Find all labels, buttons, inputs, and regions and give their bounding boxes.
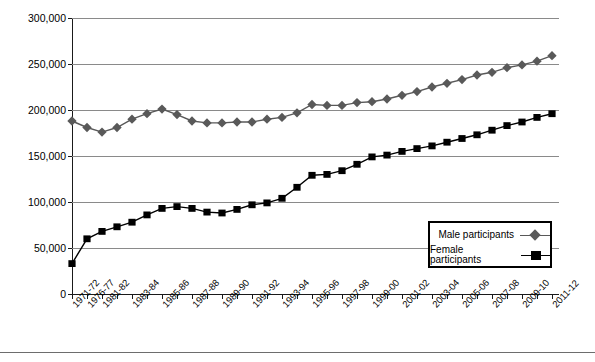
square-marker-icon bbox=[458, 135, 465, 142]
diamond-marker-icon bbox=[232, 117, 241, 126]
diamond-marker-icon bbox=[367, 97, 376, 106]
y-tick-label: 250,000 bbox=[0, 59, 66, 69]
diamond-marker-icon bbox=[127, 115, 136, 124]
diamond-marker-icon bbox=[307, 100, 316, 109]
y-tick-label: 300,000 bbox=[0, 13, 66, 23]
chart-container: 300,000250,000200,000150,000100,00050,00… bbox=[0, 0, 595, 362]
diamond-marker-icon bbox=[157, 104, 166, 113]
diamond-marker-icon bbox=[172, 110, 181, 119]
square-marker-icon bbox=[173, 203, 180, 210]
diamond-marker-icon bbox=[427, 82, 436, 91]
square-marker-icon bbox=[143, 212, 150, 219]
diamond-marker-icon bbox=[397, 91, 406, 100]
square-marker-icon bbox=[533, 114, 540, 121]
square-marker-icon bbox=[398, 148, 405, 155]
square-marker-icon bbox=[488, 127, 495, 134]
legend-item-male: Male participants bbox=[430, 225, 554, 245]
legend-label-male: Male participants bbox=[438, 230, 514, 240]
square-marker-icon bbox=[503, 122, 510, 129]
chart-legend: Male participants Female participants bbox=[428, 221, 552, 268]
square-marker-icon bbox=[473, 131, 480, 138]
square-marker-icon bbox=[368, 154, 375, 161]
diamond-marker-icon bbox=[472, 70, 481, 79]
square-marker-icon bbox=[443, 139, 450, 146]
square-marker-icon bbox=[383, 152, 390, 159]
square-marker-icon bbox=[68, 260, 75, 267]
diamond-marker-icon bbox=[337, 101, 346, 110]
diamond-marker-icon bbox=[547, 51, 556, 60]
square-marker-icon bbox=[83, 235, 90, 242]
diamond-marker-icon bbox=[142, 109, 151, 118]
bottom-divider bbox=[0, 352, 595, 353]
diamond-marker-icon bbox=[112, 123, 121, 132]
y-tick-label: 200,000 bbox=[0, 105, 66, 115]
diamond-marker-icon bbox=[382, 94, 391, 103]
diamond-marker-icon bbox=[82, 123, 91, 132]
diamond-marker-icon bbox=[487, 68, 496, 77]
square-marker-icon bbox=[158, 205, 165, 212]
square-marker-icon bbox=[233, 206, 240, 213]
diamond-marker-icon bbox=[217, 118, 226, 127]
square-marker-icon bbox=[218, 210, 225, 217]
diamond-marker-icon bbox=[412, 87, 421, 96]
y-tick-label: 150,000 bbox=[0, 151, 66, 161]
square-marker-icon bbox=[203, 209, 210, 216]
diamond-marker-icon bbox=[292, 108, 301, 117]
square-marker-icon bbox=[188, 205, 195, 212]
diamond-marker-icon bbox=[322, 101, 331, 110]
square-marker-icon bbox=[353, 161, 360, 168]
y-tick-label: 100,000 bbox=[0, 197, 66, 207]
square-marker-icon bbox=[113, 223, 120, 230]
square-marker-icon bbox=[413, 145, 420, 152]
square-marker-icon bbox=[521, 249, 550, 261]
square-marker-icon bbox=[548, 110, 555, 117]
square-marker-icon bbox=[98, 228, 105, 235]
diamond-marker-icon bbox=[352, 98, 361, 107]
y-tick-label: 50,000 bbox=[0, 243, 66, 253]
diamond-marker-icon bbox=[262, 115, 271, 124]
diamond-marker-icon bbox=[187, 116, 196, 125]
diamond-marker-icon bbox=[202, 118, 211, 127]
diamond-marker-icon bbox=[517, 60, 526, 69]
legend-label-female: Female participants bbox=[430, 245, 515, 265]
diamond-marker-icon bbox=[67, 116, 76, 125]
diamond-marker-icon bbox=[247, 117, 256, 126]
diamond-marker-icon bbox=[97, 127, 106, 136]
square-marker-icon bbox=[323, 171, 330, 178]
legend-item-female: Female participants bbox=[430, 245, 554, 265]
series-diamond bbox=[67, 51, 556, 137]
series-line bbox=[72, 56, 552, 132]
y-tick-label: 0 bbox=[0, 289, 66, 299]
diamond-marker-icon bbox=[457, 75, 466, 84]
square-marker-icon bbox=[263, 200, 270, 207]
square-marker-icon bbox=[248, 201, 255, 208]
diamond-marker-icon bbox=[532, 57, 541, 66]
square-marker-icon bbox=[293, 184, 300, 191]
diamond-marker-icon bbox=[520, 229, 550, 241]
diamond-marker-icon bbox=[442, 79, 451, 88]
square-marker-icon bbox=[128, 219, 135, 226]
square-marker-icon bbox=[308, 172, 315, 179]
square-marker-icon bbox=[338, 167, 345, 174]
diamond-marker-icon bbox=[502, 63, 511, 72]
diamond-marker-icon bbox=[277, 113, 286, 122]
square-marker-icon bbox=[518, 119, 525, 126]
square-marker-icon bbox=[278, 195, 285, 202]
square-marker-icon bbox=[428, 143, 435, 150]
